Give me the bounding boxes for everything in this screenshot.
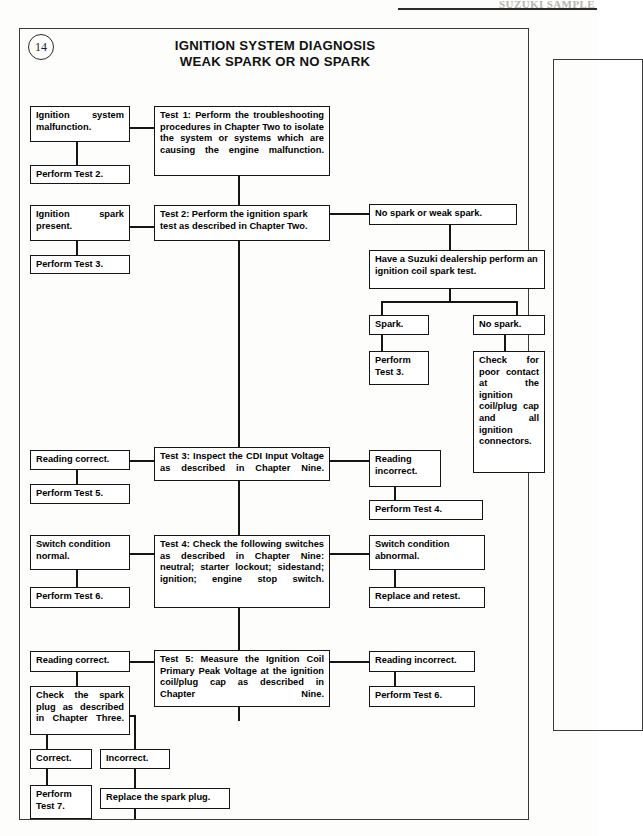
node-no-spark[interactable]: No spark. — [473, 315, 545, 335]
running-header: SUZUKI SAMPLE — [398, 0, 597, 14]
page-border-next — [553, 59, 643, 731]
node-check-poor-contact[interactable]: Check for poor contact at the ignition c… — [473, 351, 545, 473]
node-check-spark-plug[interactable]: Check the spark plug as described in Cha… — [30, 686, 130, 735]
edge-n15-n16 — [330, 460, 369, 462]
node-perform-test-4[interactable]: Perform Test 4. — [369, 500, 483, 520]
node-test-4[interactable]: Test 4: Check the following switches as … — [154, 535, 330, 608]
edge-n1-n2 — [76, 142, 78, 165]
node-test-5[interactable]: Test 5: Measure the Ignition Coil Primar… — [154, 650, 330, 707]
figure-number-badge: 14 — [28, 34, 54, 60]
edge-n13-n15 — [130, 460, 154, 462]
edge-n21-n22 — [394, 570, 396, 587]
edge-n6-n15 — [238, 241, 240, 452]
edge-n4-n6 — [130, 226, 154, 228]
node-ignition-system-malfunction[interactable]: Ignition system malfunction. — [30, 106, 130, 142]
page-title: IGNITION SYSTEM DIAGNOSIS WEAK SPARK OR … — [70, 38, 480, 70]
node-incorrect[interactable]: Incorrect. — [100, 749, 170, 769]
edge-n15-n20 — [238, 481, 240, 535]
edge-n1-n3 — [130, 127, 154, 129]
edge-n20-n25 — [238, 608, 240, 650]
title-line-2: WEAK SPARK OR NO SPARK — [70, 54, 480, 70]
node-perform-test-6-right[interactable]: Perform Test 6. — [369, 686, 475, 707]
node-perform-test-3-left[interactable]: Perform Test 3. — [30, 255, 130, 274]
node-reading-incorrect-test3[interactable]: Reading incorrect. — [369, 450, 441, 487]
node-perform-test-5[interactable]: Perform Test 5. — [30, 484, 130, 504]
edge-n20-n21 — [330, 553, 369, 555]
node-switch-condition-normal[interactable]: Switch condition normal. — [30, 535, 130, 570]
node-test-3[interactable]: Test 3: Inspect the CDI Input Voltage as… — [154, 447, 330, 481]
node-no-spark-or-weak-spark[interactable]: No spark or weak spark. — [369, 204, 517, 225]
node-reading-incorrect-test5[interactable]: Reading incorrect. — [369, 651, 475, 672]
node-perform-test-7[interactable]: Perform Test 7. — [30, 785, 92, 819]
node-test-2[interactable]: Test 2: Perform the ignition spark test … — [154, 205, 330, 241]
edge-n26-n27 — [394, 672, 396, 686]
node-perform-test-6-left[interactable]: Perform Test 6. — [30, 587, 130, 608]
node-ignition-spark-present[interactable]: Ignition spark present. — [30, 205, 130, 241]
node-test-1[interactable]: Test 1: Perform the troubleshooting proc… — [154, 106, 330, 176]
edge-n18-n19 — [76, 570, 78, 587]
node-reading-correct-test5[interactable]: Reading correct. — [30, 651, 130, 672]
edge-n23-n24 — [76, 672, 78, 686]
node-correct[interactable]: Correct. — [30, 749, 92, 769]
edge-split-n10 — [516, 301, 518, 315]
node-spark[interactable]: Spark. — [369, 315, 429, 335]
edge-n23-n25 — [130, 661, 154, 663]
edge-n18-n20 — [130, 553, 154, 555]
node-switch-condition-abnormal[interactable]: Switch condition abnormal. — [369, 535, 485, 570]
edge-n13-n14 — [76, 470, 78, 484]
edge-n25-n26 — [330, 661, 369, 663]
edge-n8-split — [381, 301, 517, 303]
running-header-rule — [398, 8, 597, 10]
node-perform-test-3-spark[interactable]: Perform Test 3. — [369, 351, 429, 385]
edge-n7-n8 — [449, 225, 451, 250]
node-replace-and-retest[interactable]: Replace and retest. — [369, 587, 485, 608]
node-suzuki-dealership-coil-test[interactable]: Have a Suzuki dealership perform an igni… — [369, 250, 545, 289]
node-perform-test-2[interactable]: Perform Test 2. — [30, 165, 130, 184]
edge-n6-n7 — [330, 213, 369, 215]
node-reading-correct-test3[interactable]: Reading correct. — [30, 450, 130, 470]
edge-n16-n17 — [394, 487, 396, 500]
node-replace-spark-plug[interactable]: Replace the spark plug. — [100, 788, 230, 809]
title-line-1: IGNITION SYSTEM DIAGNOSIS — [175, 38, 375, 53]
edge-split-n9 — [381, 301, 383, 315]
